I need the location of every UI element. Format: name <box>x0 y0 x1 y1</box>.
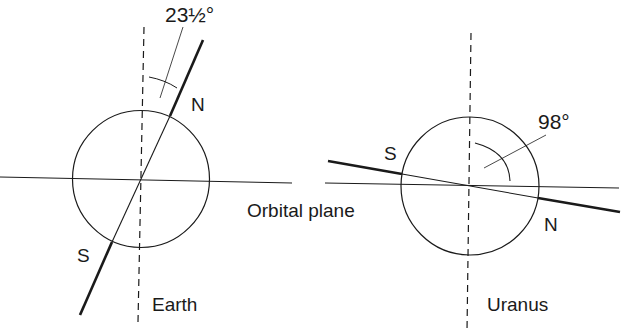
earth-tilt-label: 23½° <box>165 3 214 26</box>
earth-tilt-leader-line <box>160 27 183 98</box>
uranus-name-label: Uranus <box>487 294 548 315</box>
axial-tilt-diagram: 23½° N S Earth Orbital plane 98° S N Ura… <box>0 0 637 331</box>
earth-south-label: S <box>77 245 90 266</box>
earth-name-label: Earth <box>152 294 197 315</box>
uranus-perpendicular-dashed-line <box>467 33 471 331</box>
earth-orbital-plane-line <box>0 177 292 183</box>
earth-tilt-arc <box>149 77 177 88</box>
earth-figure: 23½° N S Earth <box>0 3 292 322</box>
uranus-tilt-leader-line <box>484 135 546 168</box>
uranus-orbital-plane-line <box>325 183 619 188</box>
earth-north-label: N <box>191 94 205 115</box>
uranus-tilt-label: 98° <box>538 110 570 133</box>
uranus-south-label: S <box>384 143 397 164</box>
uranus-north-label: N <box>544 214 558 235</box>
uranus-tilt-arc <box>475 143 510 181</box>
uranus-figure: 98° S N Uranus <box>325 33 620 331</box>
orbital-plane-label: Orbital plane <box>247 200 355 221</box>
uranus-axis-north-segment <box>538 198 620 212</box>
